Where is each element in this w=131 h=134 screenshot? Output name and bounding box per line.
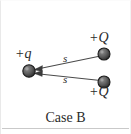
- figure-caption: Case B: [1, 111, 130, 125]
- charge-marker-left: [23, 65, 35, 77]
- distance-label-lower: s: [63, 74, 67, 85]
- charge-label-left: +q: [15, 47, 31, 61]
- charge-label-top-right: +Q: [89, 31, 109, 45]
- charge-label-bottom-right: +Q: [89, 85, 109, 99]
- caption-divider: [2, 128, 129, 129]
- charge-marker-top-right: [98, 48, 110, 60]
- physics-figure-case-b: +q +Q +Q s s Case B: [0, 0, 131, 134]
- distance-label-upper: s: [63, 53, 67, 64]
